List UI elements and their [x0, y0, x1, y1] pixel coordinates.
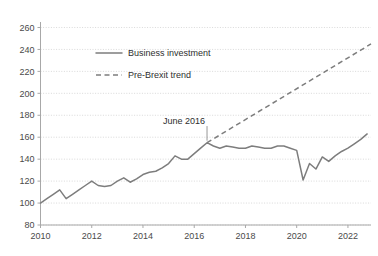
annotations-group: June 2016: [163, 116, 207, 141]
x-tick-label: 2010: [30, 231, 50, 241]
y-tick-label: 160: [19, 132, 34, 142]
y-tick-label: 260: [19, 23, 34, 33]
y-axis-tick-labels: 80100120140160180200220240260: [19, 23, 34, 231]
chart-canvas: 80100120140160180200220240260 2010201220…: [0, 0, 378, 256]
x-tick-label: 2022: [338, 231, 358, 241]
y-tick-label: 180: [19, 110, 34, 120]
y-tick-label: 100: [19, 198, 34, 208]
series-line-2: [207, 44, 371, 143]
x-tick-label: 2014: [133, 231, 153, 241]
y-tick-label: 80: [24, 220, 34, 230]
y-tick-label: 140: [19, 154, 34, 164]
legend-label-2: Pre-Brexit trend: [128, 70, 191, 80]
y-tick-label: 120: [19, 176, 34, 186]
x-tick-label: 2018: [235, 231, 255, 241]
x-tick-label: 2012: [82, 231, 102, 241]
y-tick-label: 200: [19, 89, 34, 99]
series-line-1: [41, 134, 368, 203]
y-tick-label: 240: [19, 45, 34, 55]
legend-label-1: Business investment: [128, 48, 211, 58]
line-chart: 80100120140160180200220240260 2010201220…: [0, 0, 378, 256]
chart-legend: Business investmentPre-Brexit trend: [96, 48, 211, 80]
data-series-group: [41, 44, 372, 203]
x-axis-tick-labels: 2010201220142016201820202022: [30, 231, 357, 241]
x-tick-label: 2020: [287, 231, 307, 241]
annotation-label-june-2016: June 2016: [163, 116, 205, 126]
y-tick-label: 220: [19, 67, 34, 77]
x-tick-label: 2016: [184, 231, 204, 241]
